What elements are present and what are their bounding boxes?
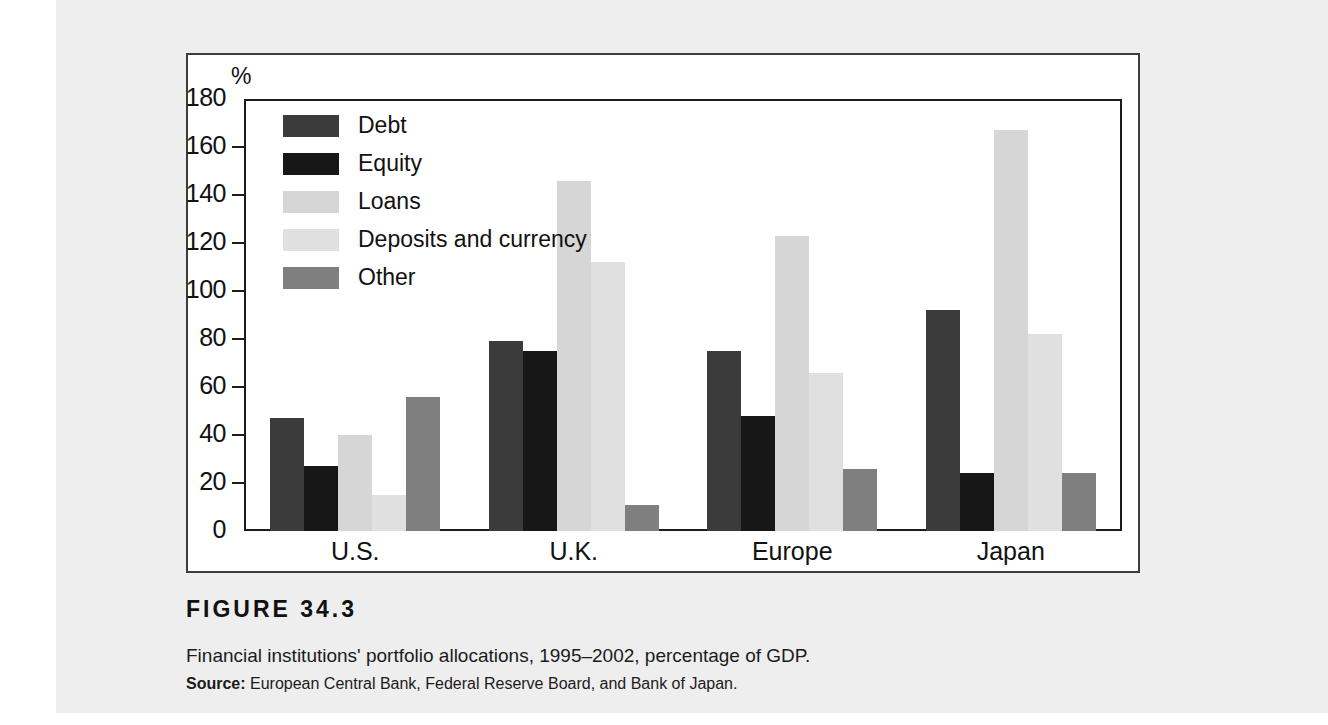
bar (843, 469, 877, 531)
bar (809, 373, 843, 531)
y-tick-mark (232, 290, 244, 292)
legend-label: Debt (358, 112, 407, 139)
source-label: Source: (186, 675, 246, 692)
y-axis-unit-label: % (231, 63, 251, 90)
legend-swatch (283, 191, 339, 213)
y-tick-label: 120 (172, 227, 226, 256)
bar (994, 130, 1028, 531)
x-axis-group-label: Japan (911, 537, 1111, 566)
y-tick-mark (232, 434, 244, 436)
x-axis-group-label: U.K. (474, 537, 674, 566)
bar (707, 351, 741, 531)
bar (591, 262, 625, 531)
source-text: European Central Bank, Federal Reserve B… (246, 675, 738, 692)
bar (406, 397, 440, 531)
bar (926, 310, 960, 531)
x-axis-group-label: U.S. (255, 537, 455, 566)
legend-item: Other (283, 262, 587, 293)
y-tick-label: 160 (172, 131, 226, 160)
y-tick-label: 100 (172, 275, 226, 304)
y-tick-mark (232, 482, 244, 484)
y-tick-label: 40 (172, 419, 226, 448)
bar (960, 473, 994, 531)
legend-swatch (283, 115, 339, 137)
source-line: Source: European Central Bank, Federal R… (186, 675, 1186, 693)
page-bottom-margin (0, 713, 1328, 725)
legend-swatch (283, 267, 339, 289)
bar (625, 505, 659, 531)
legend-label: Loans (358, 188, 421, 215)
bar (523, 351, 557, 531)
bar (489, 341, 523, 531)
bar (270, 418, 304, 531)
bar (338, 435, 372, 531)
bar (775, 236, 809, 531)
page-left-margin (0, 0, 56, 725)
y-tick-mark (232, 338, 244, 340)
figure-caption-block: FIGURE 34.3 Financial institutions' port… (186, 596, 1186, 693)
legend-label: Deposits and currency (358, 226, 587, 253)
figure-page: % 020406080100120140160180 U.S.U.K.Europ… (0, 0, 1328, 725)
legend-item: Equity (283, 148, 587, 179)
y-tick-mark (232, 146, 244, 148)
x-axis-group-label: Europe (692, 537, 892, 566)
legend-swatch (283, 229, 339, 251)
y-tick-label: 60 (172, 371, 226, 400)
legend-item: Debt (283, 110, 587, 141)
y-tick-mark (232, 242, 244, 244)
legend-label: Other (358, 264, 416, 291)
legend-label: Equity (358, 150, 422, 177)
plot-right-border (1120, 99, 1122, 531)
bar (741, 416, 775, 531)
y-tick-label: 0 (172, 515, 226, 544)
y-tick-label: 80 (172, 323, 226, 352)
y-tick-mark (232, 386, 244, 388)
legend-item: Deposits and currency (283, 224, 587, 255)
y-tick-mark (232, 194, 244, 196)
bar (372, 495, 406, 531)
bar (1028, 334, 1062, 531)
y-tick-label: 20 (172, 467, 226, 496)
legend-item: Loans (283, 186, 587, 217)
chart-legend: DebtEquityLoansDeposits and currencyOthe… (283, 110, 587, 300)
figure-number: FIGURE 34.3 (186, 596, 1186, 623)
y-tick-label: 180 (172, 83, 226, 112)
bar (304, 466, 338, 531)
caption-text: Financial institutions' portfolio alloca… (186, 645, 1186, 667)
bar (1062, 473, 1096, 531)
legend-swatch (283, 153, 339, 175)
y-tick-label: 140 (172, 179, 226, 208)
